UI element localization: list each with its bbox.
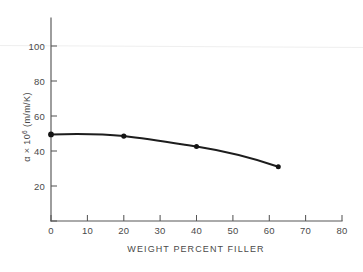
y-tick-label-100: 100 [29, 41, 45, 52]
y-axis-title-units: (m/m/K) [22, 92, 32, 127]
x-tick-label-50: 50 [227, 225, 238, 236]
data-point-0 [48, 132, 54, 138]
x-tick-label-60: 60 [264, 225, 275, 236]
x-tick-label-10: 10 [82, 225, 93, 236]
y-tick-label-80: 80 [34, 76, 45, 87]
y-tick-label-40: 40 [34, 146, 45, 157]
y-axis-title-group: α × 106 (m/m/K) [21, 92, 32, 162]
axes-group [51, 18, 342, 221]
chart-figure: 20 40 60 80 100 0 10 20 30 40 50 60 [0, 0, 363, 272]
y-tick-label-60: 60 [34, 111, 45, 122]
x-tick-label-80: 80 [337, 225, 348, 236]
y-axis-title-base: 10 [22, 134, 32, 145]
x-tick-label-70: 70 [300, 225, 311, 236]
series-line [51, 134, 278, 167]
data-point-1 [121, 134, 126, 139]
data-point-3 [276, 164, 281, 169]
x-tick-marks [51, 215, 342, 221]
y-tick-label-20: 20 [34, 181, 45, 192]
y-axis-title: α × 106 (m/m/K) [21, 92, 32, 162]
chart-plot-area: 20 40 60 80 100 0 10 20 30 40 50 60 [0, 0, 363, 272]
x-axis-title: WEIGHT PERCENT FILLER [127, 244, 264, 254]
x-tick-label-0: 0 [48, 225, 53, 236]
x-tick-label-30: 30 [155, 225, 166, 236]
x-tick-label-40: 40 [191, 225, 202, 236]
x-tick-label-20: 20 [118, 225, 129, 236]
x-tick-labels: 0 10 20 30 40 50 60 70 80 [48, 225, 347, 236]
data-series-thermal-expansion [48, 132, 281, 170]
data-point-2 [194, 144, 199, 149]
